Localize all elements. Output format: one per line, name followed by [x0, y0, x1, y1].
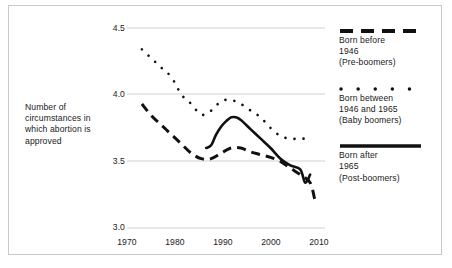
dashed-line-sample: [339, 22, 447, 33]
legend-label-line-2: 1946: [339, 46, 447, 57]
x-tick-label-1970: 1970: [110, 237, 144, 247]
x-tick-label-1980: 1980: [158, 237, 192, 247]
solid-line-sample: [339, 137, 447, 148]
x-tick-label-1990: 1990: [206, 237, 240, 247]
y-axis-label: Number of circumstances in which abortio…: [25, 102, 103, 147]
legend-label-line-1: Born before: [339, 35, 447, 46]
x-tick-label-2000: 2000: [254, 237, 288, 247]
y-tick-label-3-0: 3.0: [101, 222, 125, 232]
legend-label-line-2: 1946 and 1965: [339, 104, 447, 115]
legend-label-line-3: (Post-boomers): [339, 173, 447, 184]
legend-label-line-1: Born between: [339, 93, 447, 104]
dotted-line-sample: [339, 80, 447, 91]
legend-label-line-2: 1965: [339, 161, 447, 172]
gridlines: [127, 28, 325, 228]
x-tick-label-2010: 2010: [302, 237, 336, 247]
y-tick-label-4-0: 4.0: [101, 89, 125, 99]
series-post-boomers-solid: [206, 117, 310, 183]
legend-label-line-3: (Pre-boomers): [339, 57, 447, 68]
legend-entry-pre-boomers: Born before 1946 (Pre-boomers): [339, 22, 447, 69]
y-tick-label-4-5: 4.5: [101, 23, 125, 33]
chart-plot-svg: [127, 20, 325, 236]
chart-legend: Born before 1946 (Pre-boomers) Born betw…: [339, 22, 447, 195]
chart-frame: Number of circumstances in which abortio…: [8, 5, 442, 255]
plot-area: [127, 20, 325, 236]
legend-entry-baby-boomers: Born between 1946 and 1965 (Baby boomers…: [339, 80, 447, 127]
legend-entry-post-boomers: Born after 1965 (Post-boomers): [339, 137, 447, 184]
legend-label-line-3: (Baby boomers): [339, 115, 447, 126]
legend-label-line-1: Born after: [339, 150, 447, 161]
y-tick-label-3-5: 3.5: [101, 156, 125, 166]
